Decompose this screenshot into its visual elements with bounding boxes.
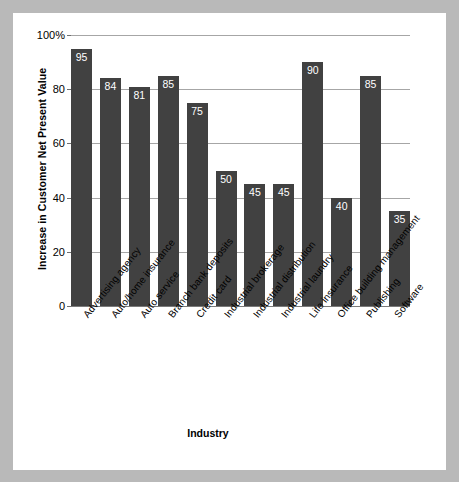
bar-slot: 35 xyxy=(389,35,410,306)
bar-slot: 50 xyxy=(216,35,237,306)
y-tick-label: 60 xyxy=(53,137,65,149)
bar-value-label: 90 xyxy=(302,64,323,76)
bar-value-label: 40 xyxy=(331,200,352,212)
bar-value-label: 81 xyxy=(129,89,150,101)
caption-sliver xyxy=(0,472,459,482)
bar-value-label: 84 xyxy=(100,80,121,92)
x-axis-title: Industry xyxy=(13,427,403,439)
bar-value-label: 85 xyxy=(158,78,179,90)
bar-value-label: 85 xyxy=(360,78,381,90)
y-tick-mark xyxy=(67,306,71,307)
y-tick-label: 100% xyxy=(37,29,65,41)
bar-value-label: 75 xyxy=(187,105,208,117)
bar-value-label: 50 xyxy=(216,173,237,185)
y-tick-label: 40 xyxy=(53,192,65,204)
bar: 95 xyxy=(71,49,92,306)
y-tick-label: 80 xyxy=(53,83,65,95)
figure-container: Increase in Customer Net Present Value 0… xyxy=(0,0,459,482)
y-axis-title: Increase in Customer Net Present Value xyxy=(36,44,48,294)
bar-slot: 95 xyxy=(71,35,92,306)
bar-slot: 85 xyxy=(158,35,179,306)
y-tick-label: 0 xyxy=(59,300,65,312)
bar-value-label: 95 xyxy=(71,51,92,63)
bar-value-label: 45 xyxy=(244,186,265,198)
chart-card: Increase in Customer Net Present Value 0… xyxy=(13,13,446,470)
bar-value-label: 45 xyxy=(273,186,294,198)
y-tick-label: 20 xyxy=(53,246,65,258)
